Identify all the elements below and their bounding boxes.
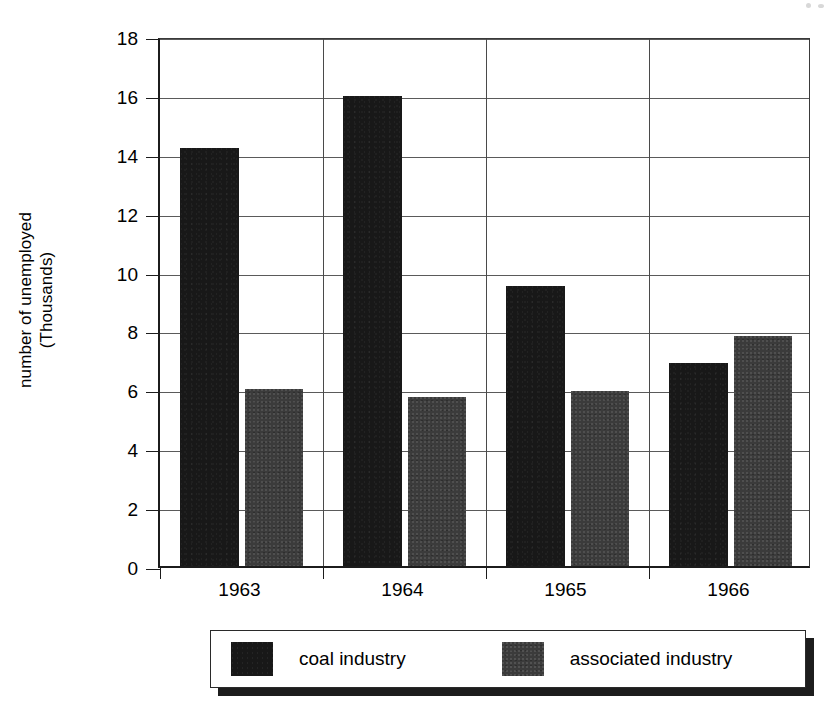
bar-associated-industry-1965 xyxy=(571,391,629,566)
bar-associated-industry-1964 xyxy=(408,397,466,566)
y-tick-label: 12 xyxy=(117,205,138,224)
bar-chart-figure: number of unemployed (Thousands) 0246810… xyxy=(0,0,834,727)
y-tick-label: 6 xyxy=(127,382,138,401)
y-tick-mark xyxy=(146,39,160,40)
y-tick-mark xyxy=(146,392,160,393)
scan-artifact xyxy=(818,4,824,8)
x-tick-label-1963: 1963 xyxy=(218,578,260,602)
gridline xyxy=(160,216,809,217)
x-tick-label-1964: 1964 xyxy=(381,578,423,602)
y-tick-mark xyxy=(146,275,160,276)
legend-label-coal-industry: coal industry xyxy=(299,648,406,670)
gridline xyxy=(160,275,809,276)
category-divider xyxy=(649,39,650,566)
gridline xyxy=(160,39,809,40)
legend-item-coal-industry: coal industry xyxy=(231,642,406,676)
y-tick-mark xyxy=(146,216,160,217)
gridline xyxy=(160,98,809,99)
scan-artifact xyxy=(806,3,811,8)
y-axis-title: number of unemployed (Thousands) xyxy=(6,150,66,450)
legend-label-associated-industry: associated industry xyxy=(570,648,733,670)
y-tick-mark xyxy=(146,510,160,511)
gridline xyxy=(160,333,809,334)
y-tick-mark xyxy=(146,451,160,452)
gridline xyxy=(160,157,809,158)
y-axis-title-line2: (Thousands) xyxy=(36,212,57,388)
y-tick-label: 10 xyxy=(117,264,138,283)
y-tick-mark xyxy=(146,569,160,570)
bar-coal-industry-1965 xyxy=(506,286,564,566)
bar-associated-industry-1966 xyxy=(734,336,792,566)
associated-swatch-icon xyxy=(502,642,544,676)
y-tick-label: 4 xyxy=(127,441,138,460)
bar-coal-industry-1966 xyxy=(669,363,727,566)
y-axis-tick-labels: 024681012141618 xyxy=(96,38,138,568)
plot-area xyxy=(158,38,810,568)
category-divider xyxy=(323,39,324,566)
y-tick-label: 2 xyxy=(127,500,138,519)
bar-associated-industry-1963 xyxy=(245,389,303,566)
y-tick-mark xyxy=(146,98,160,99)
bar-coal-industry-1963 xyxy=(180,148,238,566)
x-tick-label-1965: 1965 xyxy=(544,578,586,602)
y-tick-label: 14 xyxy=(117,146,138,165)
plot-inner xyxy=(160,39,809,566)
y-tick-label: 18 xyxy=(117,29,138,48)
y-tick-label: 16 xyxy=(117,87,138,106)
x-tick-label-1966: 1966 xyxy=(707,578,749,602)
coal-swatch-icon xyxy=(231,642,273,676)
bar-coal-industry-1964 xyxy=(343,96,401,566)
y-tick-label: 0 xyxy=(127,559,138,578)
y-tick-label: 8 xyxy=(127,323,138,342)
chart-legend: coal industry associated industry xyxy=(210,630,806,688)
y-tick-mark xyxy=(146,157,160,158)
category-divider xyxy=(486,39,487,566)
legend-item-associated-industry: associated industry xyxy=(502,642,733,676)
y-axis-title-line1: number of unemployed xyxy=(16,212,35,388)
y-tick-mark xyxy=(146,333,160,334)
x-axis-tick-labels: 1963196419651966 xyxy=(158,578,810,612)
